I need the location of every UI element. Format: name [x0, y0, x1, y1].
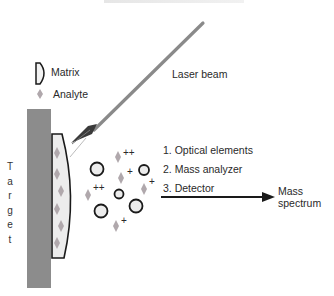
ion-charge: +	[149, 177, 155, 187]
step-optical-elements: 1. Optical elements	[163, 145, 253, 156]
target-plate	[27, 109, 51, 288]
impact-streak	[72, 130, 90, 144]
target-letter: g	[5, 204, 15, 219]
matrix-legend-label: Matrix	[51, 67, 80, 78]
mass-spectrum-label-line1: Mass	[278, 186, 303, 197]
ion-charge: ++	[123, 148, 135, 158]
target-letter: T	[5, 160, 15, 175]
impact-streak	[70, 138, 86, 157]
target-letter: a	[5, 175, 15, 190]
ion-charge: +	[121, 216, 127, 226]
target-label: T a r g e t	[5, 160, 15, 247]
ion-charge: +	[127, 167, 133, 177]
step-detector: 3. Detector	[163, 183, 214, 194]
target-letter: r	[5, 189, 15, 204]
laser-beam-label: Laser beam	[172, 69, 227, 80]
matrix-legend-icon	[36, 63, 44, 84]
target-letter: e	[5, 218, 15, 233]
target-letter: t	[5, 233, 15, 248]
mass-spectrum-label-line2: spectrum	[278, 198, 321, 209]
ion-charge: ++	[93, 183, 105, 193]
analyte-legend-label: Analyte	[53, 89, 88, 100]
analyte-legend-icon	[37, 89, 43, 99]
step-mass-analyzer: 2. Mass analyzer	[163, 164, 242, 175]
output-arrow-head-icon	[262, 192, 275, 202]
